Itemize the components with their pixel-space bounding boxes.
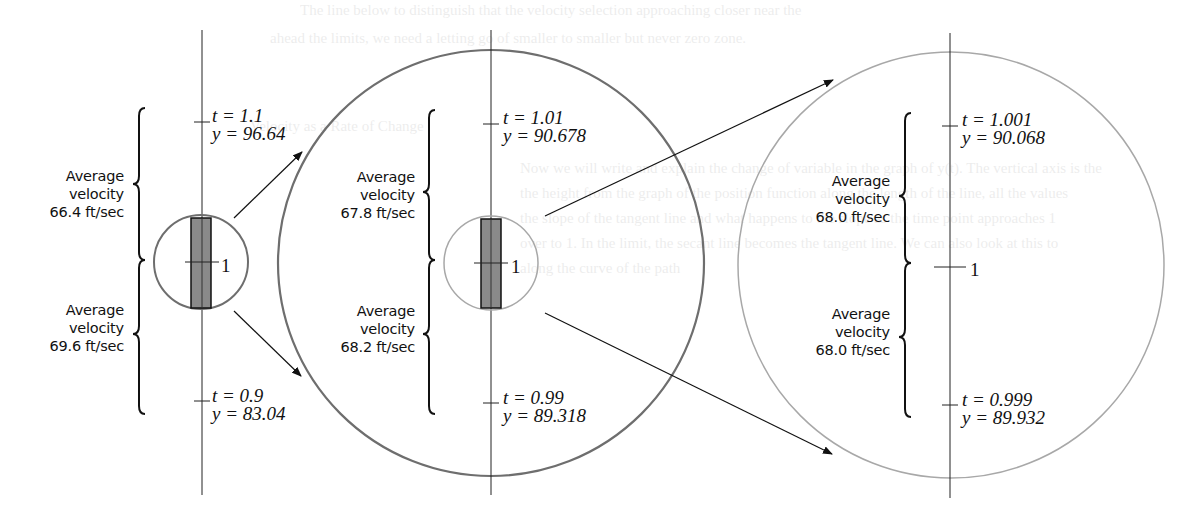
avg-velocity-lower-panel2: Average velocity 68.2 ft/sec bbox=[340, 302, 415, 356]
t-one-label-panel2: 1 bbox=[511, 257, 521, 276]
avg-velocity-upper-panel3: Average velocity 68.0 ft/sec bbox=[815, 172, 890, 226]
avg-velocity-upper-panel1: Average velocity 66.4 ft/sec bbox=[49, 167, 124, 221]
t-one-label-panel3: 1 bbox=[970, 260, 980, 279]
avg-velocity-upper-panel2: Average velocity 67.8 ft/sec bbox=[340, 168, 415, 222]
zoom-arrow-lower-2 bbox=[545, 313, 832, 454]
figure-zoom-average-velocity: The line below to distinguish that the v… bbox=[0, 0, 1187, 524]
zoom-arrow-lower-1 bbox=[234, 311, 301, 376]
zoom-arrow-upper-2 bbox=[545, 80, 833, 216]
y-label-lower-panel2: y = 89.318 bbox=[503, 406, 586, 425]
brace-lower-panel3 bbox=[899, 263, 911, 417]
y-label-upper-panel1: y = 96.64 bbox=[212, 124, 286, 143]
figure-graphics bbox=[0, 0, 1187, 524]
brace-lower-panel1 bbox=[133, 260, 145, 414]
zoom-circle-large bbox=[738, 52, 1164, 478]
y-label-lower-panel3: y = 89.932 bbox=[962, 408, 1045, 427]
y-label-upper-panel3: y = 90.068 bbox=[962, 128, 1045, 147]
brace-lower-panel2 bbox=[423, 260, 435, 414]
avg-velocity-lower-panel3: Average velocity 68.0 ft/sec bbox=[815, 305, 890, 359]
zoom-region-rect-1 bbox=[191, 218, 211, 308]
brace-upper-panel2 bbox=[423, 110, 435, 260]
brace-upper-panel1 bbox=[133, 108, 145, 260]
y-label-lower-panel1: y = 83.04 bbox=[212, 404, 286, 423]
t-one-label-panel1: 1 bbox=[221, 256, 231, 275]
avg-velocity-lower-panel1: Average velocity 69.6 ft/sec bbox=[49, 301, 124, 355]
y-label-upper-panel2: y = 90.678 bbox=[503, 126, 586, 145]
brace-upper-panel3 bbox=[899, 113, 911, 263]
